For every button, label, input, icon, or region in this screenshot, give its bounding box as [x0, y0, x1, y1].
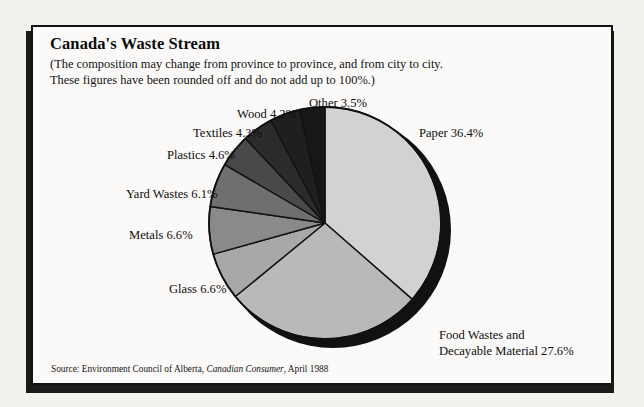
subtitle-line-2: These figures have been rounded off and … — [50, 72, 570, 89]
slice-label-plastics: Plastics 4.6% — [167, 147, 235, 163]
page-title: Canada's Waste Stream — [50, 34, 570, 55]
slice-label-metals: Metals 6.6% — [129, 227, 193, 243]
source-note: Source: Environment Council of Alberta, … — [51, 364, 328, 374]
slice-label-food-line-1: Food Wastes and — [439, 327, 574, 343]
source-prefix: Source: Environment Council of Alberta, — [51, 364, 204, 374]
slice-label-paper: Paper 36.4% — [419, 125, 483, 141]
slice-label-glass: Glass 6.6% — [169, 281, 226, 297]
slice-label-yard-wastes: Yard Wastes 6.1% — [126, 186, 218, 202]
subtitle-line-1: (The composition may change from provinc… — [50, 56, 570, 73]
slice-label-food-wastes: Food Wastes and Decayable Material 27.6% — [439, 327, 574, 359]
slice-label-wood: Wood 4.2% — [237, 106, 296, 122]
slice-label-food-line-2: Decayable Material 27.6% — [439, 343, 574, 359]
chart-panel: Canada's Waste Stream (The composition m… — [31, 25, 613, 385]
slice-label-other: Other 3.5% — [309, 95, 367, 111]
source-publication: Canadian Consumer — [206, 364, 283, 374]
source-suffix: , April 1988 — [284, 364, 329, 374]
pie-slice-group — [209, 107, 441, 339]
heading-block: Canada's Waste Stream (The composition m… — [50, 34, 570, 89]
slice-label-textiles: Textiles 4.3% — [193, 125, 262, 141]
